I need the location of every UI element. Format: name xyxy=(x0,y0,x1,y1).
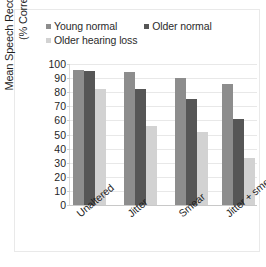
y-axis-tick-mark xyxy=(67,149,70,150)
legend-row-1: Young normal Older normal xyxy=(46,19,251,33)
bar xyxy=(84,71,95,205)
y-axis-tick-mark xyxy=(67,106,70,107)
y-axis-tick-label: 20 xyxy=(42,172,66,182)
bar-group xyxy=(72,64,107,205)
bar xyxy=(186,99,197,205)
y-axis-tick-label: 0 xyxy=(42,200,66,210)
legend-swatch-older-hearing-loss xyxy=(46,38,51,43)
chart-figure: Young normal Older normal Older hearing … xyxy=(0,0,266,267)
legend-label-older-hearing-loss: Older hearing loss xyxy=(54,34,137,47)
y-axis-title-line-2: (% Correct) xyxy=(16,0,30,40)
y-axis-tick-label: 50 xyxy=(42,130,66,140)
y-axis-tick-mark xyxy=(67,163,70,164)
y-axis-tick-label: 80 xyxy=(42,87,66,97)
y-axis-tick-mark xyxy=(67,177,70,178)
y-axis-tick-mark xyxy=(67,120,70,121)
y-axis-title: Mean Speech Recognition Score (% Correct… xyxy=(0,0,32,88)
plot-area: 1009080706050403020100 xyxy=(69,64,257,205)
y-axis-tick-label: 90 xyxy=(42,73,66,83)
bar xyxy=(175,78,186,205)
bar xyxy=(135,89,146,205)
y-axis-tick-mark xyxy=(67,135,70,136)
y-axis-tick-label: 70 xyxy=(42,101,66,111)
bar xyxy=(222,84,233,205)
bar xyxy=(73,70,84,205)
y-axis-tick-mark xyxy=(67,92,70,93)
bar-group xyxy=(174,64,209,205)
y-axis-tick-mark xyxy=(67,64,70,65)
legend-label-older-normal: Older normal xyxy=(152,20,212,33)
legend-item-older-hearing-loss: Older hearing loss xyxy=(46,33,137,47)
y-axis-tick-label: 30 xyxy=(42,158,66,168)
bar-group xyxy=(123,64,158,205)
y-axis-tick-label: 60 xyxy=(42,115,66,125)
legend-item-older-normal: Older normal xyxy=(144,19,212,33)
y-axis-tick-label: 100 xyxy=(42,59,66,69)
y-axis-tick-mark xyxy=(67,191,70,192)
y-axis-title-line-1: Mean Speech Recognition Score xyxy=(2,0,16,91)
legend-label-young-normal: Young normal xyxy=(54,20,117,33)
y-axis-tick-label: 10 xyxy=(42,186,66,196)
bar xyxy=(124,72,135,205)
bar-group xyxy=(221,64,256,205)
y-axis-tick-mark xyxy=(67,78,70,79)
chart-legend: Young normal Older normal Older hearing … xyxy=(46,19,251,47)
legend-row-2: Older hearing loss xyxy=(46,33,251,47)
bar xyxy=(146,126,157,205)
legend-item-young-normal: Young normal xyxy=(46,19,117,33)
legend-swatch-older-normal xyxy=(144,24,149,29)
legend-swatch-young-normal xyxy=(46,24,51,29)
y-axis-tick-label: 40 xyxy=(42,144,66,154)
